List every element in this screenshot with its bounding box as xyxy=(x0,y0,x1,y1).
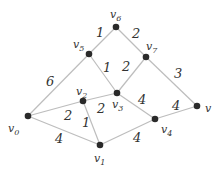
edge-weight-label: 4 xyxy=(54,131,63,146)
node-v4 xyxy=(152,116,159,123)
node-label-v4: v4 xyxy=(161,123,172,138)
edge-weight-label: 1 xyxy=(103,60,111,75)
edge-weight-label: 4 xyxy=(171,98,180,113)
edge-weight-label: 4 xyxy=(132,130,141,145)
edge-weight-label: 2 xyxy=(96,101,105,116)
node-label-v6: v6 xyxy=(110,8,121,23)
edge-weight-label: 1 xyxy=(96,25,104,40)
node-v3 xyxy=(114,90,121,97)
node-label-v0: v0 xyxy=(8,122,19,137)
edge-weight-label: 4 xyxy=(137,92,146,107)
node-v6 xyxy=(113,24,120,31)
node-label-v7: v7 xyxy=(146,40,158,55)
edge-weight-label: 2 xyxy=(131,26,140,41)
node-label-v5: v5 xyxy=(73,38,84,53)
edge-weight-label: 2 xyxy=(63,108,72,123)
edge-v6-v7 xyxy=(116,27,146,57)
edge-weight-label: 1 xyxy=(82,115,90,130)
node-label-v: v xyxy=(205,102,212,115)
node-label-v1: v1 xyxy=(94,152,105,167)
node-v0 xyxy=(25,113,32,120)
node-v7 xyxy=(143,54,150,61)
node-label-v2: v2 xyxy=(76,85,87,100)
edge-weight-label: 2 xyxy=(121,59,130,74)
edge-v1-v4 xyxy=(100,119,155,145)
node-v5 xyxy=(86,51,93,58)
node-v1 xyxy=(97,142,104,149)
edge-weight-label: 6 xyxy=(46,74,54,89)
node-v xyxy=(194,103,201,110)
edge-weight-label: 3 xyxy=(174,66,182,81)
node-labels-layer: v0v1v2v3v4v5v6v7v xyxy=(8,8,212,167)
edge-v0-v2 xyxy=(28,101,83,116)
graph-diagram: 6241211223444 v0v1v2v3v4v5v6v7v xyxy=(0,0,221,170)
node-label-v3: v3 xyxy=(112,98,123,113)
